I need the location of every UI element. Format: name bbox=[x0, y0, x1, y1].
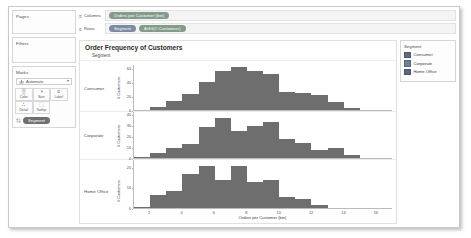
row-header-home-office[interactable]: Home Office bbox=[80, 160, 114, 223]
chart-panels: Consumer# Customers0204060Corporate# Cus… bbox=[80, 65, 396, 223]
bar[interactable] bbox=[311, 95, 327, 111]
bar[interactable] bbox=[199, 127, 215, 159]
mark-type-dropdown[interactable]: Automatic ▾ bbox=[16, 78, 72, 85]
pages-card-title: Pages bbox=[13, 11, 75, 21]
y-tick-label: 20 bbox=[127, 95, 131, 99]
legend-item-corporate[interactable]: Corporate bbox=[404, 60, 452, 67]
row-header-corporate[interactable]: Corporate bbox=[80, 112, 114, 158]
bar[interactable] bbox=[247, 182, 263, 209]
bar[interactable] bbox=[279, 139, 295, 159]
bar[interactable] bbox=[199, 82, 215, 111]
columns-shelf-well[interactable]: Orders per Customer (bin) bbox=[105, 10, 456, 21]
axis-baseline bbox=[134, 110, 392, 111]
marks-label-label: Label bbox=[55, 95, 63, 99]
bar[interactable] bbox=[231, 131, 247, 159]
rows-label-text: Rows bbox=[84, 26, 95, 31]
tableau-window: Pages Filters Marks Automatic ▾ ▒ bbox=[8, 6, 460, 228]
bar[interactable] bbox=[263, 180, 279, 209]
y-axis-ticks: 01020 bbox=[122, 160, 133, 209]
y-tick-label: 60 bbox=[127, 67, 131, 71]
filters-card[interactable]: Filters bbox=[12, 37, 76, 63]
rows-shelf: ≡ Rows Segment AGG(# Customers) bbox=[79, 23, 456, 34]
plot-area bbox=[133, 112, 392, 158]
marks-label-button[interactable]: ≡ Label bbox=[50, 88, 68, 101]
marks-detail-button[interactable]: ∴ Detail bbox=[15, 101, 33, 114]
row-header-label: Corporate bbox=[84, 133, 104, 138]
bar[interactable] bbox=[182, 174, 198, 209]
bar[interactable] bbox=[215, 180, 231, 209]
bar[interactable] bbox=[247, 126, 263, 159]
shelves-area: ≡ Columns Orders per Customer (bin) ≡ Ro… bbox=[79, 10, 456, 38]
y-axis-title-text: # Customers bbox=[116, 125, 121, 147]
rows-pill-segment[interactable]: Segment bbox=[109, 25, 136, 33]
bar[interactable] bbox=[215, 118, 231, 159]
chart-panel-corporate: Corporate# Customers010203040 bbox=[80, 112, 396, 159]
y-axis-title-text: # Customers bbox=[116, 77, 121, 99]
y-tick-label: 20 bbox=[127, 135, 131, 139]
marks-color-button[interactable]: ▒ Color bbox=[15, 88, 33, 101]
marks-color-label: Color bbox=[20, 95, 28, 99]
marks-encoding-row: Segment bbox=[13, 114, 75, 125]
chevron-down-icon[interactable]: ▾ bbox=[67, 79, 69, 83]
marks-segment-pill[interactable]: Segment bbox=[23, 117, 50, 125]
y-axis-title-text: # Customers bbox=[116, 180, 121, 202]
pages-card[interactable]: Pages bbox=[12, 10, 76, 34]
color-icon: ▒ bbox=[22, 89, 26, 94]
chart-panel-home-office: Home Office# Customers01020246810121416O… bbox=[80, 160, 396, 223]
columns-label-text: Columns bbox=[84, 13, 101, 18]
axis-baseline bbox=[134, 158, 392, 159]
x-tick-label: 10 bbox=[277, 210, 281, 215]
row-header-label: Consumer bbox=[84, 86, 104, 91]
bar[interactable] bbox=[199, 166, 215, 209]
color-swatch-icon bbox=[16, 118, 21, 123]
x-tick-label: 12 bbox=[309, 210, 313, 215]
marks-card[interactable]: Marks Automatic ▾ ▒ Color ◑ Size bbox=[12, 66, 76, 128]
columns-shelf-label: ≡ Columns bbox=[79, 13, 105, 19]
bar[interactable] bbox=[182, 94, 198, 111]
columns-pill-orders-bin[interactable]: Orders per Customer (bin) bbox=[109, 12, 169, 20]
legend-item-home-office[interactable]: Home Office bbox=[404, 69, 452, 76]
bar[interactable] bbox=[263, 74, 279, 111]
rows-pill-customers[interactable]: AGG(# Customers) bbox=[139, 25, 186, 33]
y-axis-title: # Customers bbox=[114, 65, 122, 111]
bar[interactable] bbox=[279, 92, 295, 111]
legend-label-home-office: Home Office bbox=[414, 69, 437, 74]
legend-label-consumer: Consumer bbox=[414, 52, 433, 57]
x-axis-title: Orders per Customer (bin) bbox=[133, 215, 392, 220]
marks-size-button[interactable]: ◑ Size bbox=[33, 88, 51, 101]
columns-icon: ≡ bbox=[79, 13, 82, 19]
bar[interactable] bbox=[231, 166, 247, 209]
marks-size-label: Size bbox=[38, 95, 45, 99]
y-tick-label: 10 bbox=[127, 146, 131, 150]
x-tick-label: 4 bbox=[180, 210, 182, 215]
marks-tooltip-button[interactable]: ⬚ Tooltip bbox=[33, 101, 51, 114]
pages-shelf-well[interactable] bbox=[13, 21, 75, 35]
rows-shelf-well[interactable]: Segment AGG(# Customers) bbox=[105, 23, 456, 34]
page-title: Order Frequency of Customers bbox=[80, 41, 396, 53]
x-axis: 246810121416Orders per Customer (bin) bbox=[133, 209, 392, 223]
color-legend: Segment Consumer Corporate Home Office bbox=[400, 40, 456, 82]
legend-swatch-consumer bbox=[404, 52, 411, 59]
bar[interactable] bbox=[182, 144, 198, 158]
filters-card-title: Filters bbox=[13, 38, 75, 48]
bar[interactable] bbox=[295, 143, 311, 158]
marks-card-title: Marks bbox=[13, 67, 75, 77]
legend-item-consumer[interactable]: Consumer bbox=[404, 52, 452, 59]
marks-button-grid: ▒ Color ◑ Size ≡ Label ∴ Detail ⬚ Tool bbox=[13, 88, 75, 114]
row-header-consumer[interactable]: Consumer bbox=[80, 65, 114, 111]
tooltip-icon: ⬚ bbox=[39, 102, 44, 107]
bar[interactable] bbox=[231, 67, 247, 111]
bar-series bbox=[134, 112, 392, 158]
bar[interactable] bbox=[215, 71, 231, 111]
bar[interactable] bbox=[263, 122, 279, 158]
chart-panel-consumer: Consumer# Customers0204060 bbox=[80, 65, 396, 112]
bar[interactable] bbox=[166, 191, 182, 209]
bar[interactable] bbox=[150, 195, 166, 209]
filters-shelf-well[interactable] bbox=[13, 48, 75, 62]
bar-series bbox=[134, 65, 392, 111]
x-tick-label: 16 bbox=[374, 210, 378, 215]
detail-icon: ∴ bbox=[22, 102, 25, 107]
bar[interactable] bbox=[295, 93, 311, 112]
y-axis-title: # Customers bbox=[114, 112, 122, 158]
bar[interactable] bbox=[247, 71, 263, 112]
